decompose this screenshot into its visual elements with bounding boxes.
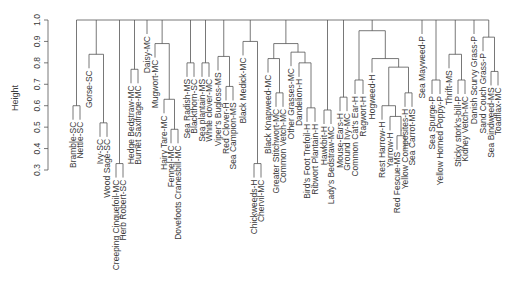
y-axis: 0.30.40.50.60.70.80.91.0	[32, 14, 48, 176]
leaf-label: Black Medick-MC	[238, 57, 248, 123]
dendrogram-svg: 0.30.40.50.60.70.80.91.0 Bramble-SCNettl…	[0, 0, 521, 289]
leaf-label: Sea Mayweed-P	[417, 36, 427, 99]
leaf-label: Hogweed-H	[367, 75, 377, 120]
y-tick-label: 0.6	[32, 100, 42, 112]
leaf-label: Chervil-MC	[256, 180, 266, 223]
leaf-label: Toadflax-MC	[493, 87, 503, 135]
y-tick-label: 1.0	[32, 14, 42, 26]
leaf-label: Nettle-SC	[75, 122, 85, 159]
y-tick-label: 0.7	[32, 78, 42, 90]
leaf-label: Herb Robert-SC	[118, 180, 128, 241]
dendrogram-chart: 0.30.40.50.60.70.80.91.0 Bramble-SCNettl…	[0, 0, 521, 289]
y-tick-label: 0.4	[32, 142, 42, 154]
y-tick-label: 0.3	[32, 164, 42, 176]
y-tick-label: 0.5	[32, 121, 42, 133]
leaf-label: Sea Carrot-MS	[407, 109, 417, 166]
leaf-label: Mugwort-MC	[150, 60, 160, 109]
y-tick-label: 0.8	[32, 57, 42, 69]
y-axis-label: Height	[10, 84, 20, 111]
leaf-label: Burnet Saxifrage-MC	[133, 85, 143, 164]
leaf-label: Dovefoots Cranesbill-MC	[173, 145, 183, 239]
leaf-label: Sea Campion-MS	[228, 102, 238, 169]
leaf-label: Yellow Horned Poppy-P	[435, 96, 445, 186]
y-tick-label: 0.9	[32, 35, 42, 47]
leaf-labels: Bramble-SCNettle-SCGorse-SCIvy-SCWood Sa…	[68, 36, 503, 271]
leaf-label: Gorse-SC	[84, 70, 94, 108]
leaf-label: Dandelion-H	[294, 79, 304, 126]
